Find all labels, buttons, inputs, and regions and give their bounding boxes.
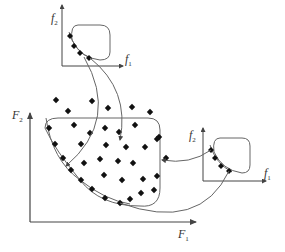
top-inset: f2 f1 <box>51 5 132 68</box>
right-inset-x-label: f1 <box>264 166 271 182</box>
right-inset-point <box>218 163 224 169</box>
right-inset-points <box>208 147 232 174</box>
solution-point <box>132 122 138 128</box>
solution-point <box>119 177 125 183</box>
solution-points <box>46 97 169 206</box>
top-inset-y-label: f2 <box>51 11 58 27</box>
right-inset: f2 f1 <box>189 128 271 182</box>
solution-point <box>65 108 71 114</box>
solution-point <box>53 97 59 103</box>
solution-point <box>103 142 109 148</box>
top-inset-points <box>67 33 92 61</box>
solution-point <box>46 125 52 131</box>
top-inset-point <box>71 43 77 49</box>
solution-point <box>102 125 108 131</box>
solution-point <box>140 176 146 182</box>
solution-point <box>71 122 77 128</box>
solution-point <box>147 109 153 115</box>
solution-point <box>129 104 135 110</box>
top-inset-x-label: f1 <box>125 52 132 68</box>
right-inset-region <box>214 138 250 173</box>
solution-point <box>151 187 157 193</box>
solution-point <box>154 173 160 179</box>
right-inset-y-label: f2 <box>189 128 196 144</box>
main-x-label: F1 <box>177 227 189 243</box>
main-y-label: F2 <box>11 108 23 124</box>
pareto-subproblem-diagram: F2 F1 f2 f1 f2 f1 <box>0 0 285 252</box>
arrow-top-to-front <box>66 57 98 166</box>
top-inset-point <box>77 50 83 56</box>
solution-point <box>138 190 144 196</box>
solution-point <box>105 105 111 111</box>
solution-point <box>101 172 107 178</box>
arrow-right-to-point <box>162 150 211 161</box>
solution-point <box>115 158 121 164</box>
solution-point <box>142 144 148 150</box>
solution-point <box>127 196 133 202</box>
top-inset-region <box>72 25 110 60</box>
solution-point <box>78 141 84 147</box>
solution-point <box>89 98 95 104</box>
solution-point <box>123 144 129 150</box>
solution-point <box>97 156 103 162</box>
solution-point <box>81 160 87 166</box>
solution-point <box>130 160 136 166</box>
